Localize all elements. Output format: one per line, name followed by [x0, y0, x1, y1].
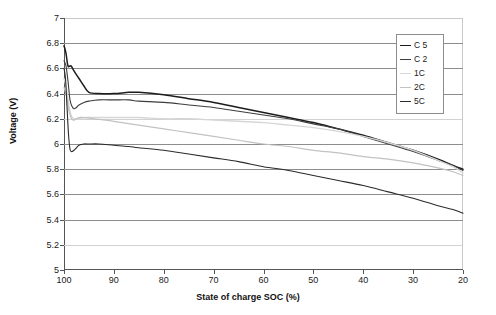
gridline — [64, 194, 463, 195]
x-tick-mark — [363, 270, 364, 274]
legend-swatch-5c — [400, 101, 411, 102]
y-tick-label: 5.2 — [46, 240, 59, 249]
legend-swatch-c2 — [400, 59, 411, 60]
x-tick-mark — [114, 270, 115, 274]
x-tick-mark — [64, 270, 65, 274]
x-tick-mark — [264, 270, 265, 274]
y-tick-mark — [60, 220, 64, 221]
x-tick-label: 90 — [109, 276, 119, 285]
x-tick-mark — [313, 270, 314, 274]
x-tick-mark — [413, 270, 414, 274]
x-tick-mark — [463, 270, 464, 274]
y-tick-label: 6.6 — [46, 64, 59, 73]
x-tick-label: 30 — [408, 276, 418, 285]
x-tick-mark — [214, 270, 215, 274]
y-tick-label: 5 — [54, 266, 59, 275]
x-tick-mark — [164, 270, 165, 274]
legend-label-5c: 5C — [414, 97, 425, 106]
y-tick-mark — [60, 43, 64, 44]
x-tick-label: 100 — [56, 276, 71, 285]
y-axis-title: Voltage (V) — [8, 98, 18, 144]
y-tick-label: 5.8 — [46, 165, 59, 174]
legend-item-1c: 1C — [397, 66, 443, 80]
y-tick-label: 5.4 — [46, 215, 59, 224]
x-tick-label: 80 — [159, 276, 169, 285]
y-tick-mark — [60, 94, 64, 95]
legend-swatch-1c — [400, 73, 411, 74]
legend-item-c5: C 5 — [397, 38, 443, 52]
legend-label-c5: C 5 — [414, 41, 427, 50]
x-tick-label: 50 — [308, 276, 318, 285]
y-tick-mark — [60, 144, 64, 145]
y-tick-label: 5.6 — [46, 190, 59, 199]
gridline — [64, 169, 463, 170]
y-tick-mark — [60, 194, 64, 195]
legend-item-2c: 2C — [397, 80, 443, 94]
y-tick-mark — [60, 169, 64, 170]
x-tick-label: 60 — [258, 276, 268, 285]
y-tick-label: 6.4 — [46, 89, 59, 98]
legend-label-1c: 1C — [414, 69, 425, 78]
x-tick-label: 40 — [358, 276, 368, 285]
gridline — [64, 245, 463, 246]
y-tick-mark — [60, 119, 64, 120]
chart-figure: Voltage (V) 55.25.45.65.866.26.46.66.87 … — [0, 0, 496, 315]
gridline — [64, 119, 463, 120]
gridline — [64, 144, 463, 145]
chart-legend: C 5 C 2 1C 2C 5C — [396, 34, 444, 114]
y-tick-label: 6 — [54, 140, 59, 149]
legend-swatch-c5 — [400, 45, 411, 46]
legend-label-2c: 2C — [414, 83, 425, 92]
legend-swatch-2c — [400, 87, 411, 88]
y-tick-mark — [60, 18, 64, 19]
x-axis-title: State of charge SOC (%) — [0, 292, 496, 302]
plot-frame-top — [64, 18, 463, 19]
gridline — [64, 220, 463, 221]
legend-item-c2: C 2 — [397, 52, 443, 66]
legend-item-5c: 5C — [397, 94, 443, 108]
y-tick-label: 6.8 — [46, 39, 59, 48]
legend-label-c2: C 2 — [414, 55, 427, 64]
y-tick-mark — [60, 245, 64, 246]
x-tick-label: 20 — [458, 276, 468, 285]
y-tick-label: 7 — [54, 14, 59, 23]
y-tick-label: 6.2 — [46, 114, 59, 123]
x-tick-label: 70 — [209, 276, 219, 285]
y-tick-mark — [60, 68, 64, 69]
